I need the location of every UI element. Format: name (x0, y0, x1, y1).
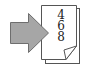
page-numbering-icon: 4 6 8 (0, 0, 86, 69)
pages-arrow-graphic (0, 0, 86, 69)
page-numbers: 4 6 8 (54, 10, 68, 43)
page-number: 8 (54, 32, 68, 43)
